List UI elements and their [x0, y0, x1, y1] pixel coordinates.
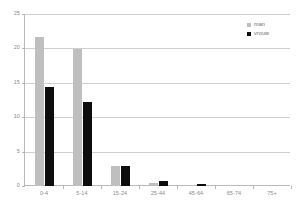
x-axis-tick-label: 0-4	[25, 191, 63, 197]
bars-layer	[25, 14, 290, 186]
y-axis-tick-label: 0	[6, 183, 20, 189]
bar-man-25-44	[149, 183, 158, 186]
bar-group	[187, 14, 206, 186]
legend-item-vrouw: vrouw	[247, 30, 269, 37]
bar-group	[225, 14, 244, 186]
y-axis-tick-label: 25	[6, 11, 20, 17]
x-tick-mark	[139, 186, 140, 189]
legend-item-man: man	[247, 21, 269, 28]
bar-man-15-24	[111, 166, 120, 186]
x-tick-mark	[63, 186, 64, 189]
x-axis-tick-label: 65-74	[215, 191, 253, 197]
x-axis: 0-45-1415-2425-4445-6465-7475+	[25, 191, 290, 207]
bar-vrouw-45-64	[197, 184, 206, 186]
x-tick-mark	[291, 186, 292, 189]
x-tick-mark	[215, 186, 216, 189]
bar-man-0-4	[35, 37, 44, 186]
legend-label: man	[254, 22, 265, 28]
y-axis-tick-label: 5	[6, 149, 20, 155]
bar-group	[111, 14, 130, 186]
y-axis-tick-label: 10	[6, 114, 20, 120]
x-axis-tick-label: 25-44	[139, 191, 177, 197]
chart-legend: manvrouw	[247, 21, 269, 37]
x-tick-mark	[101, 186, 102, 189]
bar-chart: 0510152025 0-45-1415-2425-4445-6465-7475…	[0, 0, 302, 218]
bar-group	[263, 14, 282, 186]
bar-vrouw-15-24	[121, 166, 130, 186]
bar-man-5-14	[73, 49, 82, 186]
bar-group	[73, 14, 92, 186]
legend-swatch-icon	[247, 23, 251, 27]
x-axis-tick-label: 45-64	[177, 191, 215, 197]
y-axis-tick-label: 20	[6, 45, 20, 51]
x-axis-tick-label: 5-14	[63, 191, 101, 197]
bar-vrouw-0-4	[45, 87, 54, 186]
y-axis-tick-label: 15	[6, 80, 20, 86]
y-tick-mark	[22, 186, 25, 187]
x-tick-mark	[177, 186, 178, 189]
x-axis-tick-label: 75+	[253, 191, 291, 197]
bar-man-45-64	[187, 185, 196, 186]
x-axis-tick-label: 15-24	[101, 191, 139, 197]
bar-vrouw-25-44	[159, 181, 168, 186]
bar-vrouw-5-14	[83, 102, 92, 186]
legend-swatch-icon	[247, 32, 251, 36]
x-tick-mark	[253, 186, 254, 189]
bar-group	[35, 14, 54, 186]
legend-label: vrouw	[254, 31, 269, 37]
bar-group	[149, 14, 168, 186]
